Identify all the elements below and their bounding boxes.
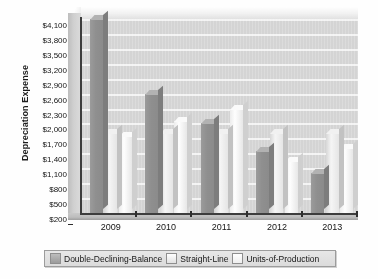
y-tick-label: $3,800 <box>14 37 67 45</box>
legend-item[interactable]: Units-of-Production <box>232 253 319 264</box>
y-tick-label: $200 <box>14 216 67 224</box>
bar-face <box>145 94 158 213</box>
legend-swatch-icon <box>50 253 61 264</box>
y-axis-tick-labels: $4,100$3,800$3,500$3,200$2,900$2,600$2,3… <box>14 13 67 220</box>
bar-group-2012 <box>256 19 298 213</box>
bar-face <box>201 123 214 213</box>
legend-label: Straight-Line <box>180 254 228 264</box>
x-tick-mark <box>135 211 137 217</box>
bar-side <box>339 125 344 209</box>
legend-item[interactable]: Straight-Line <box>166 253 228 264</box>
y-axis-line <box>80 17 82 215</box>
bar-side <box>353 140 358 209</box>
y-tick-label: $2,300 <box>14 112 67 120</box>
bar <box>90 19 103 213</box>
bar-side <box>243 100 248 209</box>
bar-side <box>187 113 192 209</box>
x-tick-mark <box>246 211 248 217</box>
bar-side <box>269 143 274 209</box>
bar-side <box>298 153 303 209</box>
bar <box>311 173 324 213</box>
legend-label: Double-Declining-Balance <box>64 254 162 264</box>
y-tick-label: $1,700 <box>14 141 67 149</box>
y-tick-label: $800 <box>14 186 67 194</box>
bar-side <box>324 165 329 209</box>
bar-side <box>117 125 122 209</box>
plot-ceiling <box>68 7 358 19</box>
legend-swatch-icon <box>166 253 177 264</box>
x-tick-mark <box>301 211 303 217</box>
bar-side <box>214 115 219 209</box>
bar-face <box>256 151 269 213</box>
y-tick-label: $3,200 <box>14 67 67 75</box>
bar-side <box>283 125 288 209</box>
chart-figure: Depreciation Expense $4,100$3,800$3,500$… <box>0 0 378 279</box>
y-tick-label: $3,500 <box>14 52 67 60</box>
bar-group-2011 <box>201 19 243 213</box>
bar-side <box>228 125 233 209</box>
legend-label: Units-of-Production <box>246 254 319 264</box>
legend-swatch-icon <box>232 253 243 264</box>
y-tick-label: $1,100 <box>14 171 67 179</box>
bar-side <box>173 125 178 209</box>
x-axis-line <box>80 213 358 215</box>
x-tick-label: 2009 <box>91 222 131 232</box>
bar-side <box>132 128 137 209</box>
x-axis-tick-labels: 20092010201120122013 <box>68 222 358 236</box>
bar-group-2013 <box>311 19 353 213</box>
x-tick-label: 2011 <box>202 222 242 232</box>
x-tick-mark <box>190 211 192 217</box>
bar-side <box>158 85 163 209</box>
bar <box>201 123 214 213</box>
x-tick-label: 2010 <box>146 222 186 232</box>
bar-face <box>90 19 103 213</box>
y-tick-label: $500 <box>14 201 67 209</box>
legend-item[interactable]: Double-Declining-Balance <box>50 253 162 264</box>
chart-legend: Double-Declining-BalanceStraight-LineUni… <box>44 250 336 267</box>
bar-face <box>311 173 324 213</box>
y-tick-label: $2,600 <box>14 97 67 105</box>
y-tick-label: $4,100 <box>14 22 67 30</box>
bar-side <box>103 11 108 209</box>
y-tick-label: $2,900 <box>14 82 67 90</box>
bar-group-2009 <box>90 19 132 213</box>
bar <box>256 151 269 213</box>
x-tick-label: 2013 <box>312 222 352 232</box>
bar-group-2010 <box>145 19 187 213</box>
bar <box>145 94 158 213</box>
plot-area <box>68 7 358 220</box>
x-tick-mark <box>356 211 358 217</box>
y-tick-label: $2,000 <box>14 126 67 134</box>
y-tick-label: $1,400 <box>14 156 67 164</box>
x-tick-label: 2012 <box>257 222 297 232</box>
